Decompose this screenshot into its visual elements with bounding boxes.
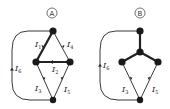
label-i6: I6 <box>102 61 109 71</box>
label-i4: I4 <box>66 40 73 50</box>
node-b-right <box>154 58 161 65</box>
label-i3: I3 <box>34 84 41 94</box>
label-i2: I2 <box>51 65 58 75</box>
edge-i3 <box>36 62 53 100</box>
arrow-i6-icon <box>10 68 14 71</box>
node-b-top <box>136 27 143 34</box>
node-a-top <box>49 27 56 34</box>
label-i5: I5 <box>63 85 70 95</box>
diagram-b: B I6 I3 I5 <box>98 8 162 103</box>
svg-text:B: B <box>138 10 143 18</box>
svg-text:A: A <box>50 10 55 18</box>
node-a-left <box>32 58 39 65</box>
diagram-a-label: A <box>47 8 57 18</box>
diagram-a: A I1 I4 I2 I6 I3 I5 <box>10 8 74 103</box>
node-a-bottom <box>50 97 56 103</box>
label-i3: I3 <box>121 85 128 95</box>
arrow-i6-icon <box>98 64 102 67</box>
node-a-right <box>66 58 73 65</box>
diagram-b-label: B <box>135 8 145 18</box>
circuit-graphs: A I1 I4 I2 I6 I3 I5 B <box>0 0 170 109</box>
node-b-center <box>136 48 143 55</box>
label-i6: I6 <box>14 64 21 74</box>
node-b-left <box>118 58 125 65</box>
arrow-i2-icon <box>50 60 53 64</box>
node-b-bottom <box>137 97 143 103</box>
label-i5: I5 <box>151 85 158 95</box>
label-i1: I1 <box>34 40 41 50</box>
